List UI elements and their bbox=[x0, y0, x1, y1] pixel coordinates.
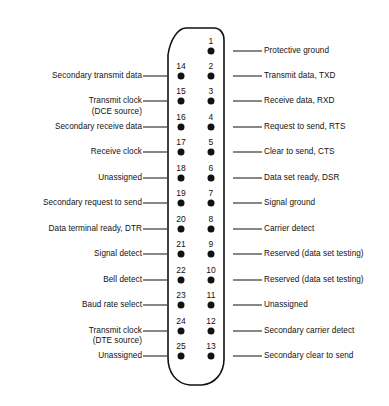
pin-dot-13 bbox=[208, 353, 215, 360]
pin-label-8: Carrier detect bbox=[264, 224, 314, 235]
pin-label-24: Transmit clock(DTE source) bbox=[89, 325, 142, 346]
leader-line-pin-19 bbox=[143, 203, 167, 204]
pin-dot-25 bbox=[178, 353, 185, 360]
pin-number-25: 25 bbox=[176, 342, 186, 351]
leader-line-pin-3 bbox=[233, 101, 262, 102]
leader-line-pin-14 bbox=[143, 76, 167, 77]
leader-line-pin-11 bbox=[233, 305, 262, 306]
pin-label-10: Reserved (data set testing) bbox=[264, 275, 364, 286]
pin-dot-15 bbox=[178, 98, 185, 105]
pin-dot-3 bbox=[208, 98, 215, 105]
pin-number-18: 18 bbox=[176, 164, 186, 173]
pin-label-line1-15: Transmit clock bbox=[89, 96, 142, 107]
pin-label-3: Receive data, RXD bbox=[264, 96, 334, 107]
leader-line-pin-12 bbox=[233, 330, 262, 331]
pin-dot-6 bbox=[208, 174, 215, 181]
pin-label-7: Signal ground bbox=[264, 198, 315, 209]
leader-line-pin-15 bbox=[143, 101, 167, 102]
leader-line-pin-10 bbox=[233, 279, 262, 280]
pin-number-11: 11 bbox=[206, 291, 215, 300]
pin-label-2: Transmit data, TXD bbox=[264, 71, 335, 82]
pin-dot-20 bbox=[178, 225, 185, 232]
pin-dot-18 bbox=[178, 174, 185, 181]
pin-number-13: 13 bbox=[206, 342, 216, 351]
pin-dot-8 bbox=[208, 225, 215, 232]
pin-dot-21 bbox=[178, 251, 185, 258]
leader-line-pin-1 bbox=[233, 50, 262, 51]
pin-dot-22 bbox=[178, 276, 185, 283]
pin-label-11: Unassigned bbox=[264, 300, 308, 311]
pin-label-13: Secondary clear to send bbox=[264, 351, 353, 362]
leader-line-pin-9 bbox=[233, 254, 262, 255]
pin-label-18: Unassigned bbox=[98, 173, 142, 184]
pin-label-6: Data set ready, DSR bbox=[264, 173, 339, 184]
pin-number-3: 3 bbox=[209, 87, 214, 96]
pin-label-22: Bell detect bbox=[103, 275, 142, 286]
pin-dot-14 bbox=[178, 73, 185, 80]
pin-number-4: 4 bbox=[209, 113, 214, 122]
pin-number-14: 14 bbox=[176, 62, 186, 71]
pin-number-19: 19 bbox=[176, 189, 186, 198]
pin-number-15: 15 bbox=[176, 87, 186, 96]
leader-line-pin-22 bbox=[143, 279, 167, 280]
pin-label-19: Secondary request to send bbox=[43, 198, 142, 209]
pin-label-9: Reserved (data set testing) bbox=[264, 249, 364, 260]
pin-label-16: Secondary receive data bbox=[55, 122, 142, 133]
pin-dot-4 bbox=[208, 123, 215, 130]
leader-line-pin-18 bbox=[143, 177, 167, 178]
pin-number-21: 21 bbox=[176, 240, 186, 249]
pin-label-line1-24: Transmit clock bbox=[89, 325, 142, 336]
pin-number-7: 7 bbox=[209, 189, 214, 198]
pin-number-16: 16 bbox=[176, 113, 186, 122]
leader-line-pin-17 bbox=[143, 152, 167, 153]
pin-number-20: 20 bbox=[176, 215, 186, 224]
pin-dot-23 bbox=[178, 302, 185, 309]
pin-dot-12 bbox=[208, 327, 215, 334]
db25-pinout-diagram: 1Protective ground2Transmit data, TXD3Re… bbox=[0, 0, 389, 406]
leader-line-pin-4 bbox=[233, 126, 262, 127]
leader-line-pin-8 bbox=[233, 228, 262, 229]
pin-label-15: Transmit clock(DCE source) bbox=[89, 96, 142, 117]
pin-label-line2-24: (DTE source) bbox=[89, 336, 142, 347]
pin-number-22: 22 bbox=[176, 266, 186, 275]
pin-number-5: 5 bbox=[209, 138, 214, 147]
pin-label-12: Secondary carrier detect bbox=[264, 326, 354, 337]
leader-line-pin-16 bbox=[143, 126, 167, 127]
pin-label-line2-15: (DCE source) bbox=[89, 106, 142, 117]
leader-line-pin-25 bbox=[143, 356, 167, 357]
pin-dot-1 bbox=[208, 47, 215, 54]
pin-number-8: 8 bbox=[209, 215, 214, 224]
pin-number-10: 10 bbox=[206, 266, 216, 275]
pin-dot-2 bbox=[208, 72, 215, 79]
pin-dot-11 bbox=[208, 302, 215, 309]
leader-line-pin-6 bbox=[233, 177, 262, 178]
leader-line-pin-23 bbox=[143, 305, 167, 306]
pin-label-1: Protective ground bbox=[264, 45, 329, 56]
pin-number-23: 23 bbox=[176, 291, 186, 300]
pin-dot-7 bbox=[208, 200, 215, 207]
pin-number-2: 2 bbox=[209, 62, 214, 71]
pin-label-20: Data terminal ready, DTR bbox=[49, 224, 142, 235]
pin-number-1: 1 bbox=[209, 37, 214, 46]
pin-label-14: Secondary transmit data bbox=[52, 71, 142, 82]
pin-label-25: Unassigned bbox=[98, 351, 142, 362]
pin-label-23: Baud rate select bbox=[82, 300, 142, 311]
leader-line-pin-21 bbox=[143, 254, 167, 255]
leader-line-pin-13 bbox=[233, 356, 262, 357]
leader-line-pin-7 bbox=[233, 203, 262, 204]
leader-line-pin-24 bbox=[143, 330, 167, 331]
pin-number-12: 12 bbox=[206, 317, 216, 326]
pin-label-21: Signal detect bbox=[94, 249, 142, 260]
pin-dot-17 bbox=[178, 149, 185, 156]
pin-dot-5 bbox=[208, 149, 215, 156]
pin-number-6: 6 bbox=[209, 164, 214, 173]
leader-line-pin-20 bbox=[143, 228, 167, 229]
pin-label-17: Receive clock bbox=[91, 147, 142, 158]
pin-dot-16 bbox=[178, 123, 185, 130]
pin-number-17: 17 bbox=[176, 138, 186, 147]
leader-line-pin-5 bbox=[233, 152, 262, 153]
pin-dot-10 bbox=[208, 276, 215, 283]
pin-dot-19 bbox=[178, 200, 185, 207]
pin-dot-9 bbox=[208, 251, 215, 258]
pin-label-5: Clear to send, CTS bbox=[264, 147, 335, 158]
